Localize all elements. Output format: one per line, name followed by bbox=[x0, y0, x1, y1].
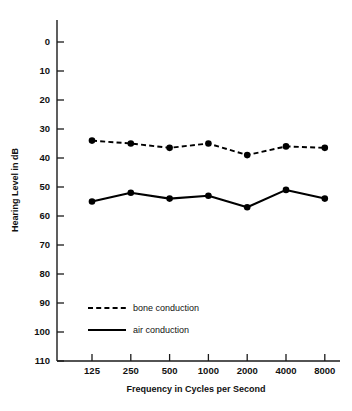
y-tick-label: 110 bbox=[35, 355, 50, 366]
data-point-air-conduction-4000 bbox=[283, 187, 290, 194]
data-point-bone-conduction-125 bbox=[89, 137, 96, 144]
data-point-bone-conduction-1000 bbox=[205, 140, 212, 147]
data-point-bone-conduction-500 bbox=[166, 145, 173, 152]
x-tick-label: 8000 bbox=[314, 365, 335, 376]
y-axis-title-group: Hearing Level in dB bbox=[10, 147, 20, 232]
chart-background bbox=[0, 0, 352, 411]
x-tick-label: 125 bbox=[84, 365, 101, 376]
y-tick-label: 100 bbox=[34, 326, 50, 337]
y-tick-label: 60 bbox=[39, 210, 50, 221]
y-tick-label: 70 bbox=[39, 239, 50, 250]
data-point-bone-conduction-8000 bbox=[322, 145, 329, 152]
legend-label-bone-conduction: bone conduction bbox=[133, 303, 199, 313]
y-tick-label: 20 bbox=[39, 94, 50, 105]
x-tick-label: 2000 bbox=[237, 365, 258, 376]
y-tick-label: 50 bbox=[39, 181, 50, 192]
data-point-air-conduction-500 bbox=[166, 195, 173, 202]
data-point-air-conduction-1000 bbox=[205, 192, 212, 199]
y-tick-label: 10 bbox=[39, 65, 50, 76]
y-tick-label: 40 bbox=[39, 152, 50, 163]
y-tick-label: 80 bbox=[39, 268, 50, 279]
data-point-air-conduction-8000 bbox=[322, 195, 329, 202]
x-tick-label: 500 bbox=[162, 365, 178, 376]
data-point-bone-conduction-250 bbox=[128, 140, 135, 147]
data-point-bone-conduction-2000 bbox=[244, 152, 251, 159]
chart-canvas: 0102030405060708090100110 12525050010002… bbox=[0, 0, 352, 411]
x-axis-title: Frequency in Cycles per Second bbox=[126, 384, 265, 394]
y-tick-label: 0 bbox=[45, 36, 50, 47]
data-point-air-conduction-250 bbox=[128, 190, 135, 197]
x-tick-label: 4000 bbox=[275, 365, 296, 376]
x-tick-label: 250 bbox=[123, 365, 139, 376]
data-point-air-conduction-125 bbox=[89, 198, 96, 205]
y-tick-label: 30 bbox=[39, 123, 50, 134]
y-axis-title: Hearing Level in dB bbox=[10, 147, 20, 232]
y-tick-label: 90 bbox=[39, 297, 50, 308]
audiogram-chart: 0102030405060708090100110 12525050010002… bbox=[0, 0, 352, 411]
data-point-bone-conduction-4000 bbox=[283, 143, 290, 150]
legend-label-air-conduction: air conduction bbox=[133, 325, 189, 335]
data-point-air-conduction-2000 bbox=[244, 204, 251, 211]
x-tick-label: 1000 bbox=[198, 365, 219, 376]
